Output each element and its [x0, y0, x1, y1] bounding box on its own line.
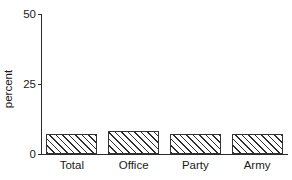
bar-total — [46, 134, 97, 154]
x-axis-line — [41, 154, 288, 155]
y-tick-label-0-wrap: 0 — [24, 148, 36, 160]
x-tick-label-army: Army — [226, 158, 288, 172]
y-tick-label-25: 25 — [16, 78, 36, 90]
bar-army — [232, 134, 283, 154]
y-tick-label-50: 50 — [16, 8, 36, 20]
plot-area — [41, 14, 288, 154]
y-tick-label-25-wrap: 25 — [16, 78, 36, 90]
y-tick-label-50-wrap: 50 — [16, 8, 36, 20]
y-axis-title: percent — [0, 54, 16, 124]
bar-office — [108, 131, 159, 154]
x-tick-label-party: Party — [165, 158, 227, 172]
x-tick-label-office: Office — [103, 158, 165, 172]
y-tick-label-0: 0 — [24, 148, 36, 160]
bar-chart: percent 50 25 0 TotalOfficePartyArmy — [0, 0, 292, 180]
bar-party — [170, 134, 221, 154]
x-tick-label-total: Total — [41, 158, 103, 172]
